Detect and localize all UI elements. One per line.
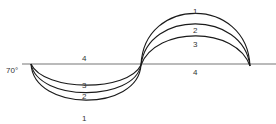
lower-curve-1-label: 1 (82, 114, 87, 123)
angle-label: 70° (6, 66, 18, 75)
upper-curve-2-label: 2 (193, 26, 198, 35)
wave-curves-diagram: 70° 4 4 1 2 3 3 2 1 (0, 0, 276, 124)
upper-curve-3-label: 3 (193, 40, 198, 49)
baseline-label-left: 4 (82, 54, 87, 63)
baseline-label-right: 4 (193, 68, 198, 77)
diagram-canvas: 70° 4 4 1 2 3 3 2 1 (0, 0, 276, 124)
lower-curve-3-label: 3 (82, 81, 87, 90)
lower-curve-2-label: 2 (82, 92, 87, 101)
upper-curve-1-label: 1 (193, 7, 198, 16)
